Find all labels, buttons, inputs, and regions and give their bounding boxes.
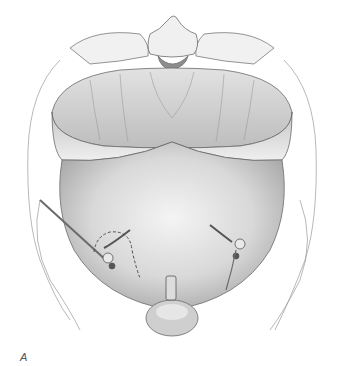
pelvic-cavity [52, 68, 292, 148]
anatomical-illustration [0, 0, 344, 366]
panel-label: A [20, 352, 27, 363]
vertebra [148, 16, 198, 70]
bladder [146, 300, 198, 336]
